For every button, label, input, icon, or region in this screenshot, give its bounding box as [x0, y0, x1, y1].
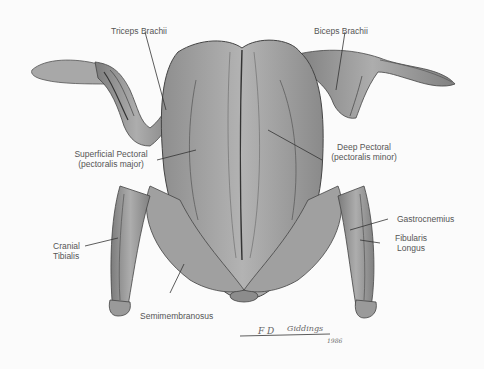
label-gastrocnemius: Gastrocnemius [397, 214, 454, 224]
frog-muscle-diagram: Triceps Brachii Biceps Brachii Superfici… [0, 0, 484, 369]
label-superficial-pectoral-name: Superficial Pectoral [66, 149, 156, 159]
signature-year: 1986 [327, 337, 342, 344]
artist-initials: F D [258, 326, 274, 336]
label-cranial-tibialis-line1: Cranial [53, 241, 80, 251]
label-superficial-pectoral-latin: (pectoralis major) [66, 159, 156, 169]
left-leg [109, 186, 150, 316]
label-cranial-tibialis: Cranial Tibialis [53, 241, 80, 261]
label-biceps-brachii: Biceps Brachii [314, 26, 368, 36]
artist-signature: Giddings [287, 324, 323, 333]
label-fibularis-longus: Fibularis Longus [389, 233, 433, 253]
label-superficial-pectoral: Superficial Pectoral (pectoralis major) [66, 149, 156, 169]
label-fibularis-line1: Fibularis [389, 233, 433, 243]
label-deep-pectoral-name: Deep Pectoral [326, 142, 402, 152]
frog-illustration [0, 0, 484, 369]
label-cranial-tibialis-line2: Tibialis [53, 251, 80, 261]
label-triceps-brachii: Triceps Brachii [111, 26, 167, 36]
label-deep-pectoral-latin: (pectoralis minor) [326, 152, 402, 162]
label-deep-pectoral: Deep Pectoral (pectoralis minor) [326, 142, 402, 162]
label-fibularis-line2: Longus [389, 243, 433, 253]
label-semimembranosus: Semimembranosus [140, 311, 213, 321]
right-leg [338, 186, 376, 318]
